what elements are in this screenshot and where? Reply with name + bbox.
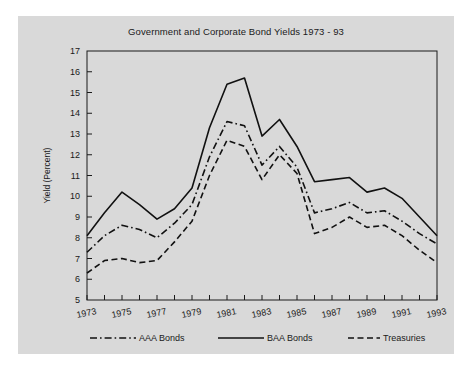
x-tick-label: 1973 [76,306,98,320]
y-tick-label: 8 [75,233,80,243]
y-tick-label: 15 [70,88,80,98]
plot-area: 567891011121314151617Yield (Percent)1973… [18,16,454,354]
figure-panel: Government and Corporate Bond Yields 197… [18,16,454,354]
x-tick-label: 1979 [181,306,203,320]
y-tick-label: 6 [75,274,80,284]
y-tick-label: 7 [75,254,80,264]
legend-label-2: Treasuries [383,333,426,343]
y-tick-label: 17 [70,46,80,56]
x-tick-label: 1981 [216,306,238,320]
x-tick-label: 1983 [251,306,273,320]
legend-label-0: AAA Bonds [139,333,185,343]
y-tick-label: 13 [70,129,80,139]
x-tick-label: 1993 [426,306,448,320]
series-line-baa-bonds [87,78,437,236]
x-tick-label: 1985 [286,306,308,320]
x-tick-label: 1991 [391,306,413,320]
x-tick-label: 1987 [321,306,343,320]
y-tick-label: 5 [75,295,80,305]
y-tick-label: 10 [70,191,80,201]
y-tick-label: 9 [75,212,80,222]
y-tick-label: 12 [70,150,80,160]
legend-label-1: BAA Bonds [267,333,313,343]
chart-svg: 567891011121314151617Yield (Percent)1973… [18,16,454,354]
y-axis-title: Yield (Percent) [42,147,52,203]
y-tick-label: 14 [70,108,80,118]
x-tick-label: 1977 [146,306,168,320]
series-line-aaa-bonds [87,122,437,253]
y-tick-label: 11 [71,171,80,181]
x-tick-label: 1989 [356,306,378,320]
y-tick-label: 16 [70,67,80,77]
x-tick-label: 1975 [111,306,133,320]
series-line-treasuries [87,140,437,273]
